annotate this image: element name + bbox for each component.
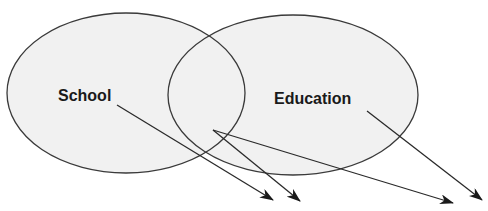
set-education-label: Education [274,90,351,107]
venn-diagram: SchoolEducation [0,0,488,211]
arrow-from-education-3 [367,111,482,200]
set-school-label: School [58,87,111,104]
